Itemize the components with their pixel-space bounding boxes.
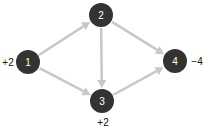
edges bbox=[39, 22, 164, 95]
node-1-label: 1 bbox=[25, 57, 31, 68]
node-3: 3 bbox=[90, 89, 114, 113]
network-diagram: 1234 +2+2−4 bbox=[0, 0, 203, 130]
edge-2-4 bbox=[112, 22, 157, 50]
edge-1-2 bbox=[39, 26, 83, 55]
node-3-supply-label: +2 bbox=[97, 117, 109, 128]
arrowhead-2-3 bbox=[97, 80, 106, 88]
node-2: 2 bbox=[89, 3, 113, 27]
node-1: 1 bbox=[16, 50, 40, 74]
node-3-label: 3 bbox=[99, 96, 105, 107]
node-1-supply-label: +2 bbox=[2, 57, 14, 68]
node-4: 4 bbox=[163, 49, 187, 73]
edge-1-3 bbox=[40, 68, 84, 91]
node-4-supply-label: −4 bbox=[191, 56, 203, 67]
edge-2-3 bbox=[101, 28, 102, 80]
node-2-label: 2 bbox=[98, 10, 104, 21]
edge-3-4 bbox=[113, 71, 156, 95]
node-4-label: 4 bbox=[172, 56, 178, 67]
